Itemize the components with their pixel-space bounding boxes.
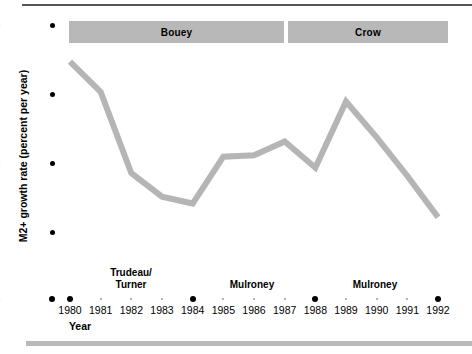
x-tick-dot-1992 [435, 296, 441, 302]
x-tick-dot-1984 [190, 296, 196, 302]
x-tick-label-1992: 1992 [418, 304, 458, 316]
era-label-trudeau-line2: Turner [61, 279, 201, 291]
x-tick-dot-1980 [67, 296, 73, 302]
chart-figure: Bouey Crow 20 15 10 5 0 M2+ growth rate … [0, 0, 472, 354]
era-label-trudeau-line1: Trudeau/ [61, 267, 201, 279]
x-tick-dot-1990 [376, 298, 378, 300]
era-label-mulroney-second: Mulroney [305, 279, 445, 291]
x-tick-dot-1989 [345, 298, 347, 300]
era-label-mulroney-first: Mulroney [182, 279, 322, 291]
x-tick-dot-1986 [253, 298, 255, 300]
x-tick-dot-1981 [100, 298, 102, 300]
x-tick-dot-1987 [284, 298, 286, 300]
era-label-trudeau-turner: Trudeau/ Turner [61, 267, 201, 291]
bottom-divider-rule [26, 341, 472, 346]
x-tick-dot-1983 [161, 298, 163, 300]
x-axis-title: Year [50, 320, 110, 332]
m2-growth-rate-line [70, 62, 438, 218]
